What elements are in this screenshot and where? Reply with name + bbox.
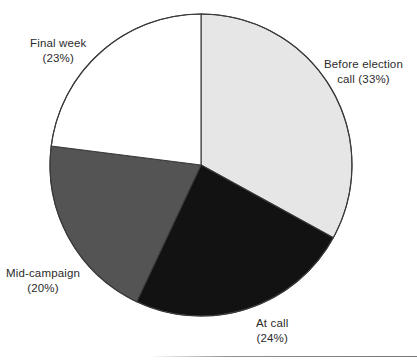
slice-label-at-call-line1: At call: [256, 316, 288, 331]
pie-slice-group: [50, 14, 352, 316]
slice-label-before-election-call: Before election call (33%): [324, 57, 403, 86]
slice-label-mid-campaign: Mid-campaign (20%): [6, 266, 80, 295]
slice-label-final-week-line1: Final week: [30, 36, 86, 51]
slice-label-mid-campaign-line2: (20%): [6, 281, 80, 296]
slice-label-at-call: At call (24%): [256, 316, 288, 345]
slice-label-before-election-call-line2: call (33%): [324, 72, 403, 87]
slice-label-final-week-line2: (23%): [30, 51, 86, 66]
slice-label-at-call-line2: (24%): [256, 331, 288, 346]
slice-label-final-week: Final week (23%): [30, 36, 86, 65]
slice-label-before-election-call-line1: Before election: [324, 57, 403, 72]
footer-divider: [148, 356, 417, 357]
pie-chart-figure: Final week (23%) Before election call (3…: [0, 0, 417, 363]
slice-label-mid-campaign-line1: Mid-campaign: [6, 266, 80, 281]
